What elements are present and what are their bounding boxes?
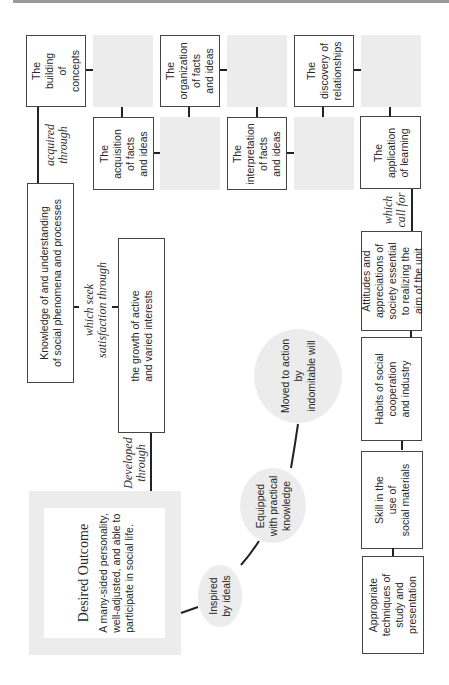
- connector-call-for: [411, 189, 413, 231]
- connector: [401, 441, 403, 450]
- box-techniques: Appropriate techniques of study and pres…: [362, 556, 424, 654]
- box-attitudes: Attitudes and appreciations of society e…: [361, 231, 422, 331]
- circle-inspired: Inspired by ideals: [198, 565, 242, 627]
- circle-moved-to-action: Moved to action by indomitable will: [254, 329, 342, 423]
- box-habits: Habits of social cooperation and industr…: [361, 337, 422, 441]
- label-which-call-for: which call for: [382, 190, 408, 230]
- circle-equipped: Equipped with practical knowledge: [240, 468, 306, 543]
- box-skill: Skill in the use of social materials: [361, 451, 423, 549]
